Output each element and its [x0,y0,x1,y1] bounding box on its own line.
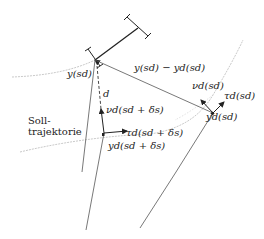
label-y-sd: y(sd) [67,68,92,79]
normal-line-at-yd-ext [140,172,176,228]
label-tau-d-sd-delta: τd(sd + δs) [126,127,183,138]
label-yd-sd: yd(sd) [206,111,237,122]
normal-line-delta [86,133,104,230]
distance-d-line [97,66,101,109]
trajectory-diagram: y(sd) y(sd) − yd(sd) νd(sd) τd(sd) yd(sd… [0,0,264,239]
label-tau-d-sd: τd(sd) [224,90,255,101]
vehicle-body [95,28,138,60]
label-nu-d-sd-delta: νd(sd + δs) [106,104,164,115]
label-soll-line2: trajektorie [28,126,82,137]
nu-d-delta-arrow [101,109,104,133]
label-nu-d-sd: νd(sd) [192,80,224,91]
label-d: d [103,88,109,99]
tau-d-delta-arrow [104,131,127,133]
label-yd-sd-delta: yd(sd + δs) [108,140,165,151]
label-error-vector: y(sd) − yd(sd) [134,62,205,73]
label-soll-line1: Soll- [28,115,51,126]
